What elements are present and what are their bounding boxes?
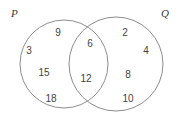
venn-circles-svg [0,0,179,122]
circle-set-p [20,20,108,108]
venn-element-12: 12 [80,74,91,84]
venn-element-8: 8 [125,70,131,80]
venn-element-4: 4 [143,46,149,56]
set-label-q: Q [161,8,169,19]
set-label-p: P [11,8,18,19]
venn-element-3: 3 [26,46,32,56]
venn-element-6: 6 [87,39,93,49]
venn-diagram: P Q 93151861224810 [0,0,179,122]
venn-element-9: 9 [55,28,61,38]
venn-element-2: 2 [122,28,128,38]
venn-element-10: 10 [122,94,133,104]
venn-element-18: 18 [45,94,56,104]
venn-element-15: 15 [38,68,49,78]
